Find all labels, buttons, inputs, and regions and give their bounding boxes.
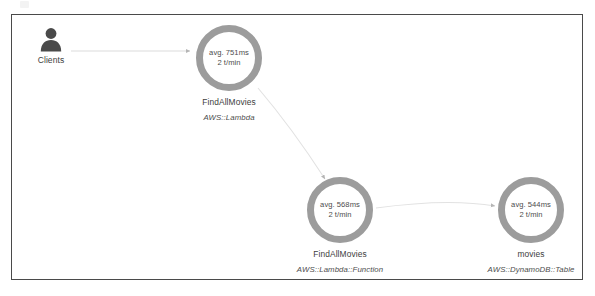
node-type: AWS::Lambda::Function (270, 265, 410, 275)
node-name: FindAllMovies (159, 97, 299, 108)
node-name: FindAllMovies (270, 249, 410, 260)
top-edge-artifact (20, 1, 29, 8)
node-movies-dynamodb-table[interactable]: avg. 544ms 2 t/min movies AWS::DynamoDB:… (461, 177, 595, 275)
node-latency: avg. 544ms (511, 200, 551, 211)
node-ring[interactable]: avg. 544ms 2 t/min (498, 177, 564, 243)
node-latency: avg. 568ms (320, 200, 360, 211)
clients-label: Clients (22, 55, 80, 66)
node-rate: 2 t/min (328, 210, 351, 221)
node-name: movies (461, 249, 595, 260)
node-findallmovies-lambda-function[interactable]: avg. 568ms 2 t/min FindAllMovies AWS::La… (270, 177, 410, 275)
node-latency: avg. 751ms (209, 48, 249, 59)
node-rate: 2 t/min (519, 210, 542, 221)
service-map-canvas: Clients avg. 751ms 2 t/min FindAllMovies… (0, 0, 595, 296)
person-icon (37, 26, 65, 52)
clients-actor[interactable]: Clients (22, 26, 80, 66)
node-rate: 2 t/min (217, 58, 240, 69)
node-type: AWS::DynamoDB::Table (461, 265, 595, 275)
node-findallmovies-lambda[interactable]: avg. 751ms 2 t/min FindAllMovies AWS::La… (159, 25, 299, 123)
node-type: AWS::Lambda (159, 113, 299, 123)
node-ring[interactable]: avg. 751ms 2 t/min (196, 25, 262, 91)
node-ring[interactable]: avg. 568ms 2 t/min (307, 177, 373, 243)
